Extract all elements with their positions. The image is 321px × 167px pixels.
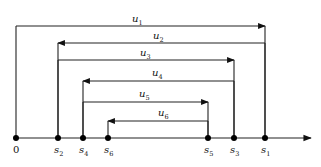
point-label-s3: s3 [230,144,239,158]
arrow-u6: u6 [108,107,208,138]
point-0: 0 [13,135,19,155]
arrow-label-u4: u4 [152,67,163,81]
point-label-s6: s6 [104,144,113,158]
point-label-s4: s4 [79,144,88,158]
point-dot-icon [80,135,86,141]
arrows-layer: u1u2u3u4u5u6 [16,13,265,138]
point-dot-icon [205,135,211,141]
arrow-u1: u1 [16,13,265,138]
point-label-0: 0 [13,144,19,155]
interval-diagram: u1u2u3u4u5u6 0s2s4s6s5s3s1 [0,0,321,167]
point-dot-icon [262,135,268,141]
point-dot-icon [105,135,111,141]
arrow-label-u3: u3 [140,47,151,61]
point-label-s2: s2 [54,144,63,158]
point-dot-icon [231,135,237,141]
point-label-s1: s1 [261,144,270,158]
point-dot-icon [13,135,19,141]
arrow-label-u1: u1 [132,13,143,27]
point-label-s5: s5 [204,144,213,158]
arrow-u5: u5 [83,88,208,138]
point-dot-icon [55,135,61,141]
arrow-label-u6: u6 [158,107,169,121]
arrow-label-u2: u2 [153,30,164,44]
arrow-label-u5: u5 [139,88,150,102]
